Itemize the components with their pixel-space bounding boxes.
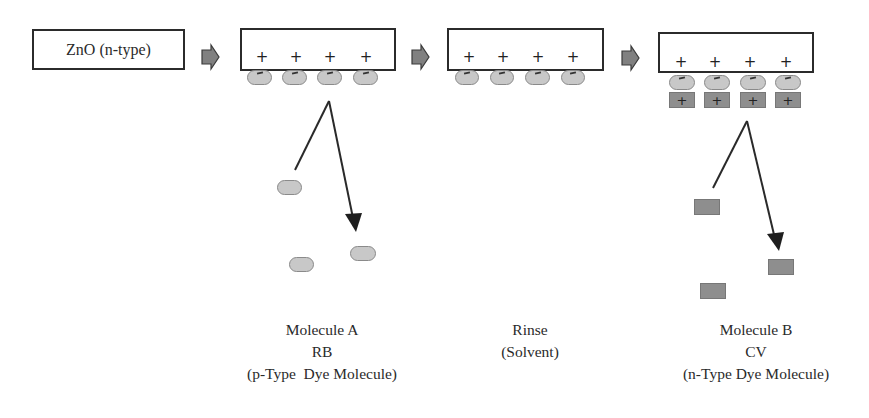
molecule-a-icon <box>775 75 801 90</box>
free-molecule-a-icon <box>350 246 376 261</box>
surface-charge: + <box>531 50 545 65</box>
molecule-a-icon <box>455 70 479 85</box>
molecule-b-name: Molecule B <box>651 319 861 341</box>
molecule-b-icon: + <box>740 92 766 108</box>
flow-arrow-icon-1 <box>202 45 219 69</box>
flow-arrow-icon-2 <box>412 45 429 69</box>
molecule-a-icon <box>282 70 307 85</box>
surface-charge: + <box>708 55 722 70</box>
free-molecule-b-icon <box>700 283 726 299</box>
molecule-a-name: Molecule A <box>222 319 422 341</box>
surface-charge: + <box>255 50 269 65</box>
rinse-label: Rinse (Solvent) <box>470 319 590 363</box>
free-molecule-a-icon <box>277 180 302 195</box>
zno-substrate-box: ZnO (n-type) <box>32 29 185 70</box>
free-molecule-b-icon <box>768 259 794 275</box>
surface-charge: + <box>743 55 757 70</box>
surface-charge: + <box>462 50 476 65</box>
molecule-b-label: Molecule B CV (n-Type Dye Molecule) <box>651 319 861 385</box>
molecule-a-arrow-icon <box>295 101 362 232</box>
molecule-a-icon <box>353 70 378 85</box>
molecule-b-icon: + <box>669 92 695 108</box>
surface-charge: + <box>323 50 337 65</box>
rinse-solvent: (Solvent) <box>470 341 590 363</box>
molecule-a-icon <box>704 75 730 90</box>
surface-charge: + <box>566 50 580 65</box>
surface-charge: + <box>289 50 303 65</box>
molecule-a-icon <box>669 75 695 90</box>
molecule-a-label: Molecule A RB (p-Type Dye Molecule) <box>222 319 422 385</box>
surface-charge: + <box>496 50 510 65</box>
molecule-a-icon <box>525 70 550 85</box>
molecule-b-abbrev: CV <box>651 341 861 363</box>
molecule-a-icon <box>490 70 514 85</box>
free-molecule-a-icon <box>289 257 314 272</box>
surface-charge: + <box>359 50 373 65</box>
zno-label: ZnO (n-type) <box>66 41 151 59</box>
free-molecule-b-icon <box>694 199 720 215</box>
molecule-a-type: (p-Type Dye Molecule) <box>222 363 422 385</box>
molecule-a-icon <box>247 70 272 85</box>
molecule-b-icon: + <box>704 92 730 108</box>
molecule-a-icon <box>740 75 766 90</box>
molecule-a-icon <box>561 70 585 85</box>
molecule-a-icon <box>317 70 342 85</box>
molecule-b-arrow-icon <box>713 121 784 251</box>
surface-charge: + <box>779 55 793 70</box>
flow-arrow-icon-3 <box>622 46 639 70</box>
rinse-title: Rinse <box>470 319 590 341</box>
molecule-b-type: (n-Type Dye Molecule) <box>651 363 861 385</box>
surface-charge: + <box>674 55 688 70</box>
molecule-a-abbrev: RB <box>222 341 422 363</box>
molecule-b-icon: + <box>775 92 801 108</box>
